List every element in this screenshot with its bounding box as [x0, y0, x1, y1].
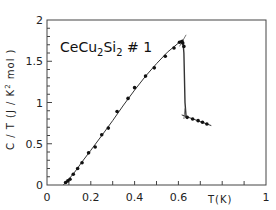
y-axis-ticks	[47, 28, 52, 177]
data-point	[153, 66, 157, 70]
x-tick-label: 0	[44, 191, 51, 204]
y-tick-label: 1	[36, 97, 43, 110]
data-point	[205, 122, 209, 126]
x-tick-label: 0.2	[82, 191, 100, 204]
x-tick-label: 0.6	[170, 191, 188, 204]
x-tick-label: 0.4	[126, 191, 144, 204]
data-point	[185, 116, 189, 120]
sample-annotation: CeCu2Si2 # 1	[60, 39, 152, 58]
construction-mark	[184, 108, 185, 119]
data-point	[163, 55, 167, 59]
curves	[63, 35, 211, 185]
data-point	[71, 172, 75, 176]
data-point	[181, 41, 185, 45]
x-tick-label: 1	[263, 191, 270, 204]
data-point	[93, 145, 97, 149]
annot-si: Si	[103, 39, 116, 55]
data-point	[133, 86, 137, 90]
y-axis-tick-labels: 00.511.52	[26, 14, 44, 192]
y-tick-label: 0.5	[26, 138, 44, 151]
data-point	[196, 119, 200, 123]
transition-line	[183, 40, 186, 117]
data-point	[115, 110, 119, 114]
data-point	[172, 46, 176, 50]
data-point	[201, 121, 205, 125]
y-axis-label-pre: C / T (J / K	[5, 89, 16, 150]
y-tick-label: 2	[36, 14, 43, 27]
data-points	[64, 40, 209, 185]
data-point	[87, 151, 91, 155]
data-point	[68, 177, 72, 181]
data-point	[100, 133, 104, 137]
x-axis-tick-labels: 00.20.40.61	[44, 191, 270, 204]
data-point	[76, 167, 80, 171]
annot-cecu: CeCu	[60, 39, 97, 55]
y-axis-label: C / T (J / K2 mol )	[4, 48, 16, 150]
annot-suffix: # 1	[123, 39, 153, 55]
y-tick-label: 1.5	[26, 55, 44, 68]
data-point	[144, 74, 148, 78]
data-point	[182, 45, 186, 49]
data-point	[80, 161, 84, 165]
x-axis-label: T(K)	[207, 194, 232, 205]
data-point	[107, 126, 111, 130]
x-axis-ticks	[69, 181, 244, 185]
data-point	[126, 97, 130, 101]
y-tick-label: 0	[36, 179, 43, 192]
data-point	[191, 117, 195, 121]
chart: 00.20.40.61 00.511.52 T(K) C / T (J / K2…	[0, 0, 276, 210]
y-axis-label-post: mol )	[5, 48, 16, 83]
